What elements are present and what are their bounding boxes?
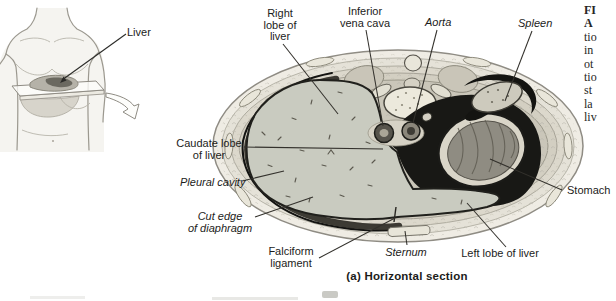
label-spleen: Spleen	[518, 18, 552, 30]
label-liver-inset: Liver	[127, 27, 151, 39]
aorta-vessel	[402, 122, 420, 140]
sternum-shape	[388, 225, 430, 236]
textbook-figure-page: { "figure": { "description": "Horizontal…	[0, 0, 616, 301]
inferior-vena-cava-vessel	[375, 124, 394, 143]
cutoff-caption-text: FI A tio in ot tio st la liv	[584, 4, 616, 125]
label-cut-edge-of-diaphragm: Cut edge of diaphragm	[188, 211, 252, 234]
spinous-process	[405, 55, 422, 71]
label-falciform-ligament: Falciform ligament	[268, 246, 313, 269]
label-inferior-vena-cava: Inferior vena cava	[340, 6, 390, 29]
flip-arrow-icon	[106, 93, 139, 119]
figure-caption: (a) Horizontal section	[346, 271, 467, 283]
scan-artifacts	[30, 291, 338, 300]
torso-inset-illustration	[0, 8, 139, 152]
label-aorta: Aorta	[425, 17, 451, 29]
label-right-lobe-of-liver: Right lobe of liver	[263, 8, 296, 43]
label-sternum: Sternum	[385, 247, 427, 259]
label-stomach: Stomach	[567, 185, 610, 197]
label-pleural-cavity: Pleural cavity	[180, 177, 245, 189]
label-caudate-lobe: Caudate lobe of liver	[176, 138, 241, 161]
cross-section-illustration	[213, 30, 583, 258]
label-left-lobe-of-liver: Left lobe of liver	[461, 248, 539, 260]
